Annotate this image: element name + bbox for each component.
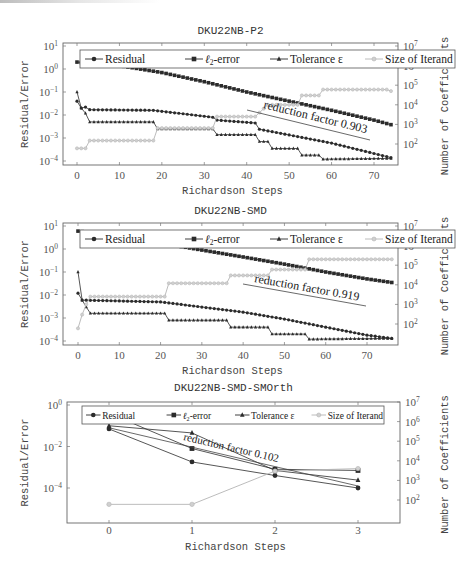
data-point <box>368 151 371 154</box>
y-tick-label: 10−2 <box>43 440 62 453</box>
data-point <box>372 118 376 122</box>
data-point <box>324 326 327 329</box>
data-point <box>217 307 220 310</box>
data-point <box>203 115 206 118</box>
data-point <box>316 324 319 327</box>
data-point <box>148 139 151 142</box>
data-point <box>180 282 183 285</box>
legend-label: Residual <box>105 233 145 245</box>
data-point <box>309 94 312 97</box>
data-point <box>254 257 258 261</box>
data-point <box>382 258 385 261</box>
data-point <box>131 139 134 142</box>
data-point <box>258 93 262 97</box>
data-point <box>258 128 261 131</box>
data-point <box>347 146 350 149</box>
data-point <box>274 261 278 265</box>
data-point <box>341 258 344 261</box>
data-point <box>305 94 308 97</box>
data-point <box>159 295 162 298</box>
data-point <box>126 295 129 298</box>
data-point <box>291 268 294 271</box>
data-point <box>349 330 352 333</box>
data-point <box>130 295 133 298</box>
data-point <box>160 110 163 113</box>
data-point <box>139 139 142 142</box>
legend-marker-icon <box>92 57 97 62</box>
data-point <box>156 70 160 74</box>
data-point <box>270 260 274 264</box>
data-point <box>138 295 141 298</box>
data-point <box>237 254 241 258</box>
data-point <box>309 137 312 140</box>
data-point <box>317 139 320 142</box>
data-point <box>97 139 100 142</box>
data-point <box>291 264 295 268</box>
data-point <box>303 322 306 325</box>
reduction-factor-annotation: reduction factor 0.102 <box>183 430 281 464</box>
data-point <box>233 254 237 258</box>
data-point <box>192 282 195 285</box>
y-tick-label: 10−1 <box>39 265 58 278</box>
data-point <box>76 327 79 330</box>
data-point <box>118 295 121 298</box>
legend: Residualℓ2-errorTolerance εSize of Itera… <box>80 50 455 68</box>
x-tick-label: 60 <box>320 349 332 361</box>
data-point <box>207 126 210 129</box>
data-point <box>245 256 249 260</box>
data-point <box>313 94 316 97</box>
data-point <box>320 258 323 261</box>
data-point <box>287 268 290 271</box>
data-point <box>313 138 316 141</box>
data-point <box>217 282 220 285</box>
data-point <box>114 108 117 111</box>
data-point <box>283 317 286 320</box>
data-point <box>85 299 88 302</box>
data-point <box>152 139 155 142</box>
data-point <box>114 295 117 298</box>
data-point <box>109 139 112 142</box>
y2-tick-label: 103 <box>403 297 418 310</box>
data-point <box>163 295 166 298</box>
x-tick-label: 20 <box>156 169 168 181</box>
data-point <box>357 332 360 335</box>
data-point <box>365 277 369 281</box>
data-point <box>376 119 380 123</box>
data-point <box>194 114 197 117</box>
data-point <box>373 278 377 282</box>
data-point <box>186 126 189 129</box>
data-point <box>270 315 273 318</box>
data-point <box>92 139 95 142</box>
data-point <box>381 121 385 125</box>
x-axis-label: Richardson Steps <box>182 185 283 197</box>
data-point <box>364 88 367 91</box>
data-point <box>200 305 203 308</box>
data-point <box>105 139 108 142</box>
data-point <box>390 281 394 285</box>
data-point <box>109 108 112 111</box>
data-point <box>224 115 227 118</box>
y2-tick-label: 103 <box>403 117 418 130</box>
y2-tick-label: 102 <box>403 137 418 150</box>
data-point <box>312 323 315 326</box>
data-point <box>351 88 354 91</box>
legend: Residualℓ2-errorTolerance εSize of Itera… <box>82 406 384 424</box>
data-point <box>105 299 108 302</box>
data-point <box>97 299 100 302</box>
data-point <box>349 274 353 278</box>
data-point <box>97 108 100 111</box>
legend-label: Residual <box>105 53 145 65</box>
data-point <box>351 113 355 117</box>
data-point <box>347 112 351 116</box>
data-point <box>184 303 187 306</box>
reduction-factor-line <box>110 428 358 486</box>
data-point <box>237 120 240 123</box>
data-point <box>258 258 262 262</box>
chart-title: DKU22NB-SMD <box>194 205 267 217</box>
data-point <box>114 139 117 142</box>
data-point <box>114 299 117 302</box>
chart-2: DKU22NB-SMD10110010−110−210−310−41071061… <box>19 205 455 377</box>
y-axis-label: Residual/Error <box>19 418 31 506</box>
data-point <box>190 113 193 116</box>
legend-marker-icon <box>172 413 177 418</box>
